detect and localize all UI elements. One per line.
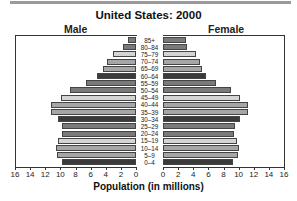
female-bar: [163, 159, 233, 165]
male-bar: [113, 51, 136, 57]
age-group-label: 15–19: [136, 137, 163, 144]
female-bar: [163, 131, 234, 137]
x-tick-label: 16: [7, 170, 23, 179]
x-tick-label: 8: [216, 170, 232, 179]
x-tick-label: 2: [170, 170, 186, 179]
female-bar: [163, 95, 240, 101]
female-label: Female: [208, 23, 244, 35]
chart-title: United States: 2000: [0, 9, 297, 21]
male-bar: [62, 123, 136, 129]
age-group-label: 20–24: [136, 130, 163, 137]
female-bar: [163, 123, 235, 129]
x-tick-label: 4: [185, 170, 201, 179]
male-label: Male: [64, 23, 87, 35]
female-bar: [163, 59, 200, 65]
x-tick-label: 14: [261, 170, 277, 179]
female-bar: [163, 87, 231, 93]
age-group-label: 60–64: [136, 73, 163, 80]
age-group-label: 25–29: [136, 123, 163, 130]
x-tick-label: 12: [37, 170, 53, 179]
male-bar: [128, 37, 136, 43]
male-bar: [61, 95, 136, 101]
age-group-label: 35–39: [136, 109, 163, 116]
x-tick-label: 12: [246, 170, 262, 179]
male-bar: [70, 87, 136, 93]
female-bar: [163, 102, 248, 108]
age-group-label: 85+: [136, 37, 163, 44]
male-bar: [57, 152, 136, 158]
age-group-label: 80–84: [136, 44, 163, 51]
x-axis-label: Population (in millions): [0, 181, 297, 192]
male-bar: [51, 102, 136, 108]
age-group-label: 40–44: [136, 101, 163, 108]
age-group-label: 70–74: [136, 58, 163, 65]
male-bar: [103, 66, 136, 72]
male-bar: [107, 59, 136, 65]
male-bar: [56, 145, 136, 151]
top-rule: [10, 1, 291, 4]
x-tick-label: 8: [68, 170, 84, 179]
female-bar: [163, 73, 206, 79]
x-tick-label: 10: [52, 170, 68, 179]
female-bar: [163, 116, 240, 122]
female-bar: [163, 80, 216, 86]
age-group-label: 45–49: [136, 94, 163, 101]
x-tick-label: 2: [113, 170, 129, 179]
female-bar: [163, 138, 237, 144]
age-group-label: 30–34: [136, 116, 163, 123]
x-tick-label: 16: [276, 170, 292, 179]
female-bar: [163, 66, 202, 72]
male-bar: [123, 44, 136, 50]
age-group-label: 65–69: [136, 65, 163, 72]
age-group-label: 0–4: [136, 159, 163, 166]
male-bar: [62, 159, 136, 165]
female-bar: [163, 145, 239, 151]
x-tick-label: 10: [231, 170, 247, 179]
female-bar: [163, 51, 196, 57]
age-group-label: 10–14: [136, 145, 163, 152]
x-tick-label: 6: [83, 170, 99, 179]
x-tick-label: 4: [98, 170, 114, 179]
x-tick-label: 6: [200, 170, 216, 179]
male-bar: [86, 80, 136, 86]
female-bar: [163, 37, 186, 43]
age-group-label: 75–79: [136, 51, 163, 58]
age-group-label: 5–9: [136, 152, 163, 159]
male-bar: [58, 138, 136, 144]
male-bar: [51, 109, 136, 115]
x-tick-label: 14: [22, 170, 38, 179]
male-bar: [62, 131, 136, 137]
x-tick-label: 0: [128, 170, 144, 179]
male-bar: [58, 116, 136, 122]
x-tick-label: 0: [155, 170, 171, 179]
age-group-label: 55–59: [136, 80, 163, 87]
male-bar: [97, 73, 136, 79]
female-bar: [163, 109, 248, 115]
age-group-label: 50–54: [136, 87, 163, 94]
female-bar: [163, 44, 187, 50]
female-bar: [163, 152, 238, 158]
